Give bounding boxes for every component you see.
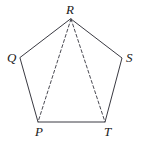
vertex-label-Q: Q bbox=[7, 51, 16, 64]
vertex-label-R: R bbox=[66, 3, 74, 16]
pentagon-outline-path bbox=[20, 19, 122, 122]
diagonal-R-to-P bbox=[38, 19, 71, 122]
pentagon-diagram bbox=[0, 0, 145, 143]
vertex-label-S: S bbox=[126, 51, 133, 64]
vertex-label-P: P bbox=[35, 125, 43, 138]
diagonal-R-to-T bbox=[71, 19, 105, 122]
vertex-label-T: T bbox=[104, 125, 111, 138]
geometry-figure: R Q S P T bbox=[0, 0, 145, 143]
